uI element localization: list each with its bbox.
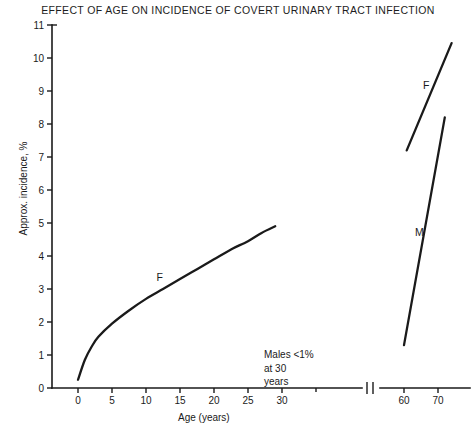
y-tick-label: 11 bbox=[34, 20, 45, 31]
series-line-M-elderly bbox=[404, 117, 445, 345]
y-tick-label: 8 bbox=[38, 119, 44, 130]
x-tick-label: 5 bbox=[109, 395, 115, 406]
y-tick-label: 10 bbox=[33, 53, 45, 64]
data-series-group bbox=[78, 43, 452, 380]
x-tick-label: 10 bbox=[140, 395, 152, 406]
x-tick-label: 70 bbox=[432, 395, 444, 406]
series-line-F bbox=[78, 226, 275, 379]
y-tick-label: 5 bbox=[38, 218, 44, 229]
x-axis: 0510152025306070 bbox=[52, 382, 470, 406]
y-tick-label: 7 bbox=[38, 152, 44, 163]
series-label-group: FFM bbox=[156, 79, 429, 282]
y-tick-label: 9 bbox=[38, 86, 44, 97]
y-tick-label: 2 bbox=[38, 317, 44, 328]
chart-figure: EFFECT OF AGE ON INCIDENCE OF COVERT URI… bbox=[0, 0, 476, 434]
x-tick-label: 15 bbox=[174, 395, 186, 406]
y-tick-label: 4 bbox=[38, 251, 44, 262]
plot-area: 01234567891011 0510152025306070 FFM bbox=[0, 0, 476, 434]
y-tick-label: 3 bbox=[38, 284, 44, 295]
x-tick-label: 25 bbox=[242, 395, 254, 406]
y-tick-label: 6 bbox=[38, 185, 44, 196]
x-tick-label: 60 bbox=[398, 395, 410, 406]
y-tick-label: 1 bbox=[38, 350, 44, 361]
x-tick-label: 0 bbox=[75, 395, 81, 406]
x-tick-label: 20 bbox=[208, 395, 220, 406]
x-tick-label: 30 bbox=[276, 395, 288, 406]
series-label-M-elderly: M bbox=[415, 226, 424, 238]
series-label-F-elderly: F bbox=[423, 79, 429, 91]
y-tick-label: 0 bbox=[38, 383, 44, 394]
series-label-F: F bbox=[156, 271, 162, 283]
y-axis: 01234567891011 bbox=[33, 20, 57, 394]
series-line-F-elderly bbox=[407, 43, 452, 150]
